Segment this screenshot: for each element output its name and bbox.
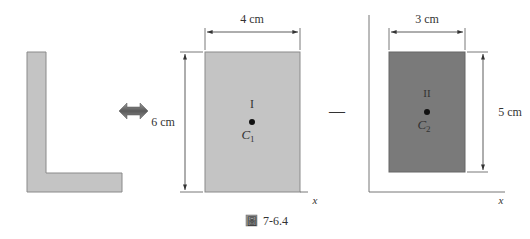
l-shape	[27, 52, 122, 192]
rect-i-region-label: I	[250, 97, 254, 111]
double-arrow-icon	[119, 103, 148, 119]
rect-ii-height-label: 5 cm	[498, 105, 522, 119]
figure-canvas: 4 cm 6 cm I C1 x — 3 cm 5 cm II C2 x 圖 7…	[0, 0, 530, 239]
rect-ii-width-label: 3 cm	[415, 12, 439, 26]
centroid-dot-c2	[424, 109, 430, 115]
caption-number: 7-6.4	[263, 214, 288, 228]
x-axis-label-1: x	[312, 194, 318, 206]
rectangle-i	[180, 28, 308, 192]
rect-i-height-label: 6 cm	[151, 115, 175, 129]
caption-prefix: 圖	[247, 216, 257, 227]
rect-i-width-label: 4 cm	[240, 12, 264, 26]
centroid-dot-c1	[249, 119, 255, 125]
minus-operator: —	[328, 102, 346, 119]
rectangle-ii	[369, 15, 505, 192]
figure-caption: 圖 7-6.4	[246, 214, 288, 228]
rect-ii-region-label: II	[423, 87, 431, 99]
x-axis-label-2: x	[498, 194, 504, 206]
